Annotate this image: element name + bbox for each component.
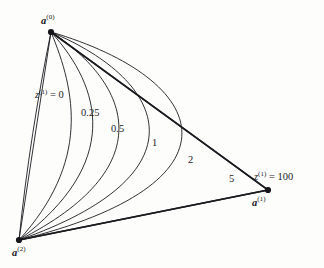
- vertex-dot-a1: [265, 187, 271, 193]
- contour-label-1: 1: [152, 138, 157, 149]
- vertex-dots-group: [16, 29, 271, 243]
- vertex-label-superscript: (1): [257, 195, 265, 203]
- z-value-text: = 100: [266, 171, 293, 182]
- level-curves-group: [19, 32, 268, 240]
- contour-label-z-equals-0: z(1) = 0: [35, 88, 64, 100]
- vertex-dot-a0: [48, 29, 54, 35]
- level-curve-0-5: [19, 32, 93, 240]
- contour-label-2: 2: [188, 155, 193, 166]
- edge-a0-a2: [19, 32, 51, 240]
- vertex-label-a0: a(0): [41, 14, 55, 26]
- contour-label-0-25: 0.25: [81, 108, 99, 119]
- contour-figure: a(0) a(1) a(2) z(1) = 0 0.25 0.5 1 2 5 z…: [0, 0, 324, 268]
- contour-label-z-equals-100: z(1) = 100: [254, 170, 293, 182]
- vertex-label-a2: a(2): [12, 246, 26, 258]
- edge-a1-a2: [19, 190, 268, 240]
- vertex-label-superscript: (2): [17, 245, 25, 253]
- vertex-label-superscript: (0): [46, 13, 54, 21]
- contour-label-0-5: 0.5: [111, 124, 124, 135]
- level-curve-1: [19, 32, 119, 240]
- level-curve-100: [19, 32, 268, 240]
- vertex-dot-a2: [16, 237, 22, 243]
- contour-plot-svg: [0, 0, 324, 268]
- z-variable: z(1): [35, 89, 47, 100]
- level-curve-2: [19, 32, 149, 240]
- z-value-text: = 0: [47, 89, 63, 100]
- z-variable: z(1): [254, 171, 266, 182]
- contour-label-5: 5: [229, 174, 234, 185]
- vertex-label-a1: a(1): [252, 196, 266, 208]
